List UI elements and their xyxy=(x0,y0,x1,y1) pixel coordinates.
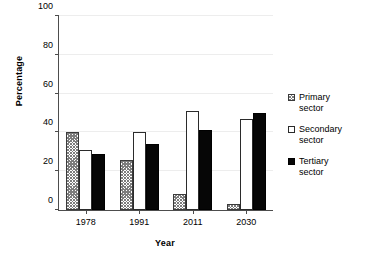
x-axis-tick xyxy=(86,210,87,214)
y-axis-tick xyxy=(55,15,59,16)
y-axis-label: 100 xyxy=(23,1,53,11)
legend-swatch-secondary-icon xyxy=(288,126,295,133)
legend-item-label: Primarysector xyxy=(299,92,330,114)
bar-group xyxy=(120,16,159,210)
x-axis-label: 2011 xyxy=(183,217,202,227)
y-axis-label: 0 xyxy=(23,195,53,205)
bar-secondary-sector xyxy=(133,132,146,210)
legend-item-label: Secondarysector xyxy=(299,124,342,146)
y-axis-tick xyxy=(55,131,59,132)
y-axis-tick xyxy=(55,170,59,171)
bar-secondary-sector xyxy=(186,111,199,210)
bar-group xyxy=(227,16,266,210)
x-axis-tick xyxy=(139,210,140,214)
y-axis-tick xyxy=(55,54,59,55)
legend-swatch-tertiary-icon xyxy=(288,158,295,165)
bar-primary-sector xyxy=(66,132,79,210)
chart-legend: PrimarysectorSecondarysectorTertiarysect… xyxy=(288,92,365,188)
bar-tertiary-sector xyxy=(253,113,266,210)
y-axis-label: 60 xyxy=(23,79,53,89)
x-axis-label: 1991 xyxy=(129,217,149,227)
legend-item-label: Tertiarysector xyxy=(299,156,329,178)
x-axis-tick xyxy=(193,210,194,214)
bar-chart: Percentage 020406080100 1978199120112030… xyxy=(0,0,365,263)
bar-primary-sector xyxy=(173,194,186,210)
y-axis-tick xyxy=(55,93,59,94)
bar-secondary-sector xyxy=(79,150,92,210)
x-axis-tick xyxy=(246,210,247,214)
bar-group xyxy=(173,16,212,210)
y-axis-label: 20 xyxy=(23,156,53,166)
legend-item[interactable]: Tertiarysector xyxy=(288,156,365,178)
bar-primary-sector xyxy=(120,160,133,210)
y-axis-label: 40 xyxy=(23,117,53,127)
legend-item[interactable]: Secondarysector xyxy=(288,124,365,146)
bar-tertiary-sector xyxy=(92,154,105,210)
x-axis-title: Year xyxy=(58,238,272,248)
x-axis-label: 1978 xyxy=(76,217,96,227)
y-axis-tick xyxy=(55,209,59,210)
x-axis-label: 2030 xyxy=(236,217,256,227)
bar-tertiary-sector xyxy=(146,144,159,210)
bar-secondary-sector xyxy=(240,119,253,210)
legend-item[interactable]: Primarysector xyxy=(288,92,365,114)
plot-area: 020406080100 1978199120112030 xyxy=(58,16,273,211)
bar-group xyxy=(66,16,105,210)
y-axis-label: 80 xyxy=(23,40,53,50)
bar-primary-sector xyxy=(227,204,240,210)
bar-tertiary-sector xyxy=(199,130,212,210)
legend-swatch-primary-icon xyxy=(288,94,295,101)
